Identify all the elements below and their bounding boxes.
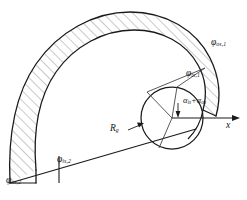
label-angle-sum: αis+αos [183,96,206,105]
angle-leader-arrowhead [176,111,181,118]
phi-is-1-subscript: is,1 [191,72,200,78]
radius-leader-line [128,125,140,130]
label-phi-os-2: φos,2 [6,176,21,186]
label-axis-x: x [226,121,230,131]
inner-wall-to-base [188,110,203,139]
lower-chord-line [10,129,196,183]
radial-line-left [147,92,172,118]
radial-line-lower [159,118,172,148]
geometry-drawing [0,0,247,200]
radius-leader-arrowhead [137,123,144,128]
label-phi-is-2: φis,2 [57,155,71,165]
phi-os-2-subscript: os,2 [11,179,21,185]
base-radius-subscript: g [116,127,119,133]
angle-second-subscript: os [201,99,206,105]
x-axis-arrowhead [232,115,240,121]
axis-x-symbol: x [226,120,230,130]
radial-line-upper [172,87,177,118]
label-phi-is-1: φis,1 [186,69,200,79]
label-base-radius: Rg [110,124,119,134]
label-phi-os-1: φos,1 [211,38,226,48]
scroll-geometry-figure: φos,1 φis,1 φis,2 φos,2 Rg αis+αos x [0,0,247,200]
phi-os-1-subscript: os,1 [216,41,226,47]
phi-is-2-subscript: is,2 [62,158,71,164]
